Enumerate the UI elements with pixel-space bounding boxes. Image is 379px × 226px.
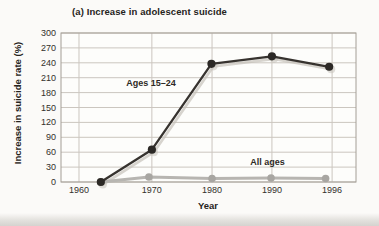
y-tick-label: 300 [41,28,56,38]
x-tick-label: 1970 [142,185,162,195]
y-tick-label: 150 [41,103,56,113]
data-point [97,178,105,186]
data-point [148,146,156,154]
series-label: Ages 15–24 [126,78,176,88]
x-tick-label: 1980 [202,185,222,195]
chart-title: (a) Increase in adolescent suicide [72,6,227,17]
y-tick-label: 270 [41,43,56,53]
data-point [322,175,330,183]
x-tick-label: 1996 [322,185,342,195]
x-tick-label: 1960 [69,185,89,195]
y-tick-label: 120 [41,117,56,127]
y-tick-label: 0 [51,177,56,187]
x-tick-label: 1990 [262,185,282,195]
x-axis-title: Year [198,200,218,211]
y-tick-label: 30 [46,162,56,172]
data-point [145,173,153,181]
data-point [268,52,276,60]
y-tick-label: 240 [41,58,56,68]
data-point [325,63,333,71]
series-label: All ages [250,157,285,167]
y-axis-title: Increase in suicide rate (%) [12,42,23,165]
y-tick-label: 210 [41,73,56,83]
data-point [267,174,275,182]
y-tick-label: 60 [46,147,56,157]
plot-area: 3002702402101801501209060300196019701980… [0,0,379,226]
data-point [207,60,215,68]
chart-figure: 3002702402101801501209060300196019701980… [0,0,379,226]
y-tick-label: 90 [46,132,56,142]
y-tick-label: 180 [41,88,56,98]
data-point [208,175,216,183]
